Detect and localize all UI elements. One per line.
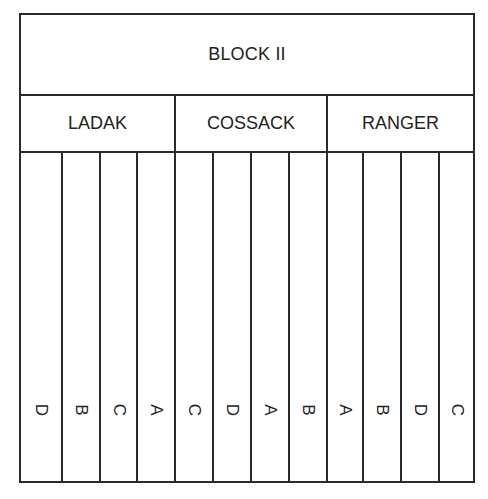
group-header-ranger: RANGER <box>326 96 473 151</box>
plot-label: D <box>32 404 49 416</box>
plot-label: C <box>448 404 465 416</box>
plot-label: C <box>186 404 203 416</box>
block-title-cell: BLOCK II <box>21 15 473 96</box>
group-header-row: LADAK COSSACK RANGER <box>21 96 473 153</box>
plot-strip: A <box>250 153 288 481</box>
plot-strip: B <box>288 153 326 481</box>
plot-label: A <box>148 404 165 415</box>
plot-strip: D <box>212 153 250 481</box>
plot-label: A <box>261 404 278 415</box>
plot-strip: A <box>326 153 363 481</box>
plot-label: A <box>337 404 354 415</box>
plot-strip: D <box>21 153 61 481</box>
plot-label: B <box>374 404 391 415</box>
plot-strip: B <box>362 153 400 481</box>
plot-label: C <box>110 404 127 416</box>
block-diagram: BLOCK II LADAK COSSACK RANGER D B C A C <box>19 13 475 483</box>
group-label: COSSACK <box>207 113 295 134</box>
group-header-ladak: LADAK <box>21 96 174 151</box>
plot-strip: C <box>99 153 137 481</box>
group-header-cossack: COSSACK <box>174 96 326 151</box>
plot-strip: B <box>61 153 99 481</box>
plot-strip: C <box>174 153 212 481</box>
plot-strip: A <box>136 153 174 481</box>
plot-strips: D B C A C D A B A B D <box>21 153 473 481</box>
group-label: LADAK <box>68 113 127 134</box>
plot-label: D <box>224 404 241 416</box>
group-label: RANGER <box>362 113 439 134</box>
block-title: BLOCK II <box>208 44 286 65</box>
plot-strip: C <box>438 153 473 481</box>
plot-strip: D <box>400 153 438 481</box>
plot-label: B <box>299 404 316 415</box>
plot-label: D <box>412 404 429 416</box>
plot-label: B <box>72 404 89 415</box>
